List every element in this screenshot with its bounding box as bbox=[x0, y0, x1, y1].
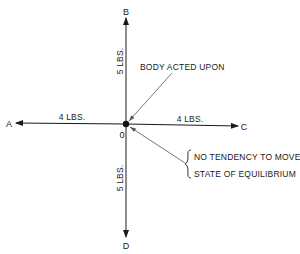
vector-c bbox=[126, 124, 238, 126]
label-b: B bbox=[123, 7, 129, 17]
force-down-label: 5 LBS. bbox=[115, 165, 125, 192]
force-diagram: B D A C 0 5 LBS. 5 LBS. 4 LBS. 4 LBS. BO… bbox=[0, 0, 300, 254]
label-d: D bbox=[123, 241, 130, 251]
equilibrium-line-1: NO TENDENCY TO MOVE. bbox=[194, 152, 300, 162]
vector-a bbox=[16, 123, 126, 124]
body-point bbox=[123, 121, 129, 127]
force-up-label: 5 LBS. bbox=[115, 48, 125, 75]
label-a: A bbox=[6, 119, 12, 129]
force-left-label: 4 LBS. bbox=[59, 112, 86, 122]
leader-body bbox=[129, 73, 172, 121]
brace-icon bbox=[185, 150, 191, 178]
label-c: C bbox=[241, 122, 248, 132]
equilibrium-line-2: STATE OF EQUILIBRIUM bbox=[194, 169, 296, 179]
leader-equilibrium bbox=[130, 127, 185, 163]
label-origin: 0 bbox=[119, 130, 124, 140]
force-right-label: 4 LBS. bbox=[177, 114, 204, 124]
body-annotation: BODY ACTED UPON bbox=[140, 62, 225, 72]
